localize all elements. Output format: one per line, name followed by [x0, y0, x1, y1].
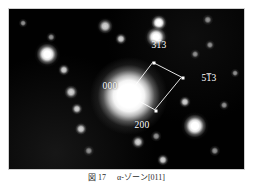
reflection-index-label: 000 [102, 82, 117, 92]
figure-number: 図 17 [88, 173, 106, 182]
reflection-index-label: 513 [201, 74, 216, 84]
reflection-index-label: 313 [151, 41, 166, 51]
reciprocal-lattice-vector-lines [9, 9, 244, 169]
vector-line [155, 77, 182, 110]
reflection-index-label: 200 [134, 121, 149, 131]
reflection-marker [182, 77, 185, 80]
vector-line [128, 95, 155, 110]
reflection-marker [153, 62, 156, 65]
figure-page: 313513200000 図 17α-ゾーン[011] [0, 0, 253, 186]
figure-caption: 図 17α-ゾーン[011] [0, 173, 253, 183]
vector-line [153, 62, 182, 77]
reflection-marker [155, 110, 158, 113]
diffraction-plate: 313513200000 [8, 8, 245, 170]
vector-line [128, 62, 153, 95]
caption-text: α-ゾーン[011] [117, 173, 165, 182]
